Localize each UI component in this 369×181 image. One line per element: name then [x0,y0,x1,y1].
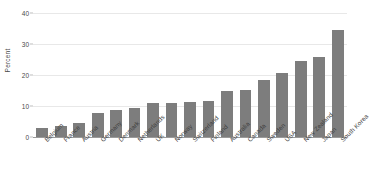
y-tick-label: 30 [22,41,29,48]
y-tick-label: 0 [25,134,29,141]
bar [166,103,178,137]
y-axis-title: Percent [4,33,11,89]
y-tick-label: 20 [22,72,29,79]
y-tick-label: 40 [22,10,29,17]
y-tick-label: 10 [22,103,29,110]
bar [295,61,307,137]
bar [332,30,344,137]
plot-area: 010203040 [33,13,347,137]
bars-layer [33,13,347,137]
x-axis-labels: BelgiumFranceAustriaGermanyDenmarkNether… [33,138,347,181]
